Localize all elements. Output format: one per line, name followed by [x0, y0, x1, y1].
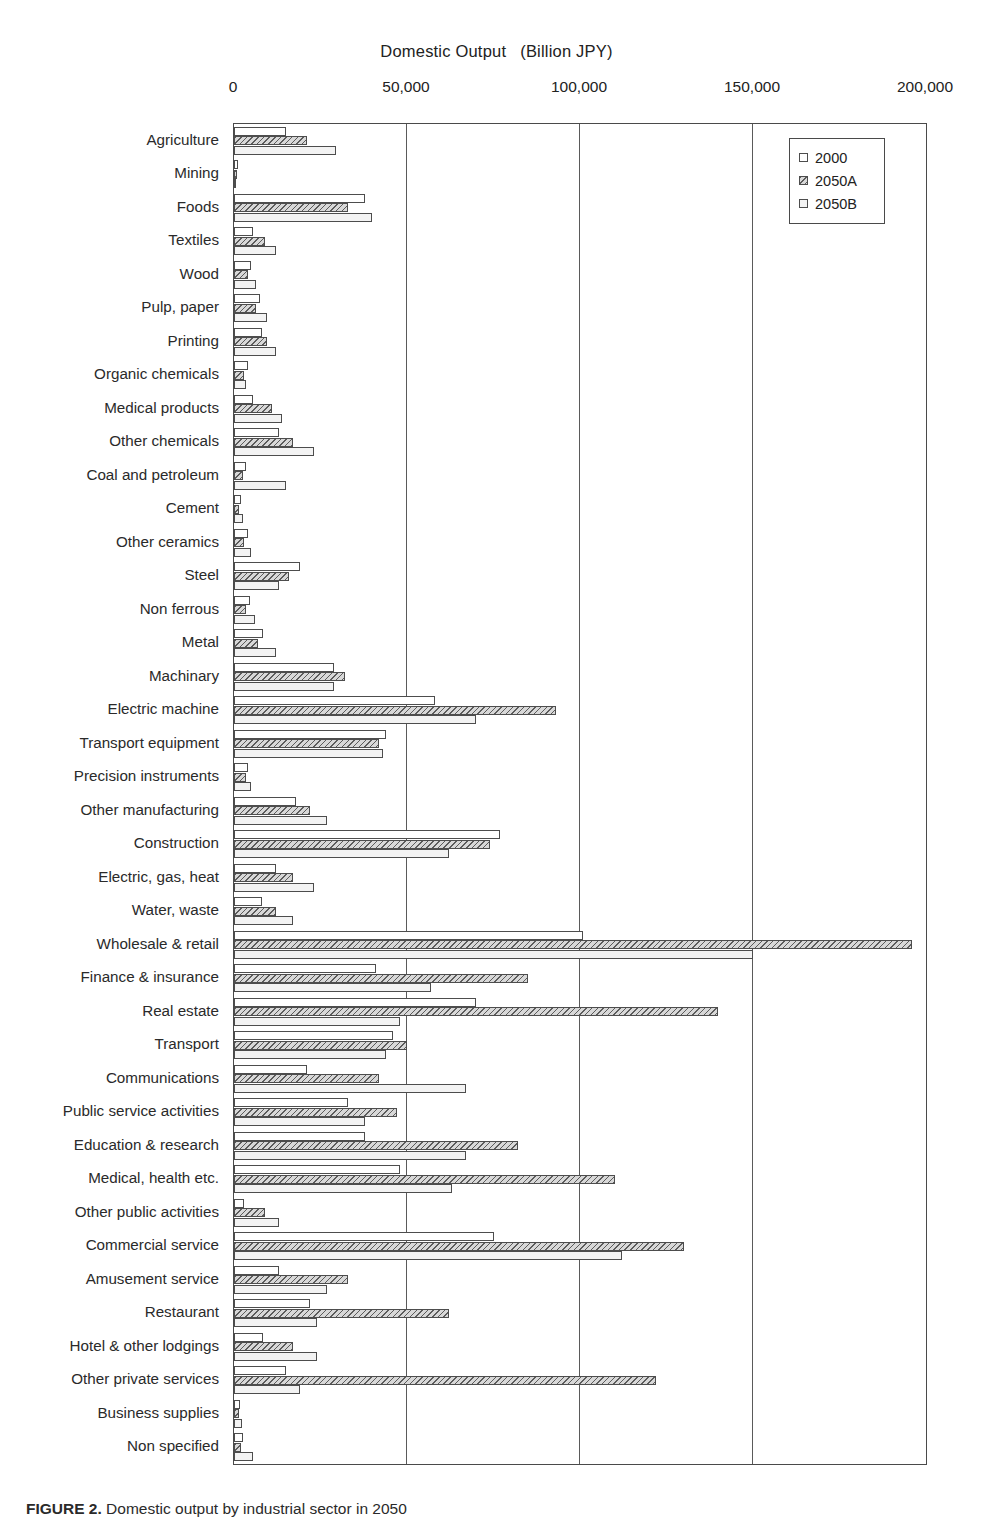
figure-caption: FIGURE 2. Domestic output by industrial … — [26, 1500, 407, 1518]
category-label: Steel — [184, 568, 219, 583]
category-label: Education & research — [74, 1137, 219, 1152]
bar-2000 — [234, 160, 238, 169]
bar-2000 — [234, 562, 300, 571]
bar-2000 — [234, 1333, 263, 1342]
bar-2050A — [234, 337, 267, 346]
bar-2050A — [234, 572, 289, 581]
category-label: Mining — [174, 166, 219, 181]
bar-2000 — [234, 1165, 400, 1174]
bar-2050B — [234, 313, 267, 322]
bar-2000 — [234, 696, 435, 705]
bar-2050A — [234, 639, 258, 648]
bar-2050B — [234, 347, 276, 356]
category-label: Metal — [182, 635, 219, 650]
bar-2050A — [234, 873, 293, 882]
bar-2050A — [234, 739, 379, 748]
legend-swatch-2050A — [799, 176, 808, 185]
bar-2000 — [234, 294, 260, 303]
bar-2000 — [234, 663, 334, 672]
bar-2000 — [234, 931, 583, 940]
bar-2050B — [234, 615, 255, 624]
bar-2000 — [234, 261, 251, 270]
bar-2000 — [234, 1132, 365, 1141]
bar-2000 — [234, 797, 296, 806]
bar-2050B — [234, 1352, 317, 1361]
chart-legend: 20002050A2050B — [789, 138, 885, 224]
bar-2000 — [234, 495, 241, 504]
bar-2000 — [234, 1232, 494, 1241]
category-label: Machinary — [149, 668, 219, 683]
bar-2000 — [234, 730, 386, 739]
category-label: Other public activities — [75, 1204, 219, 1219]
category-label: Foods — [177, 199, 219, 214]
bar-2050A — [234, 1309, 449, 1318]
bar-2050A — [234, 1074, 379, 1083]
bar-2050A — [234, 1376, 656, 1385]
category-label: Amusement service — [86, 1271, 219, 1286]
bar-2000 — [234, 1299, 310, 1308]
category-label: Commercial service — [86, 1238, 219, 1253]
bar-2050B — [234, 1117, 365, 1126]
bar-2050A — [234, 672, 345, 681]
category-label: Pulp, paper — [141, 300, 219, 315]
figure-caption-text: Domestic output by industrial sector in … — [106, 1500, 407, 1517]
bar-2050B — [234, 1084, 466, 1093]
chart-title: Domestic Output(Billion JPY) — [0, 42, 993, 61]
bar-2050B — [234, 246, 276, 255]
bar-2050B — [234, 782, 251, 791]
category-label: Finance & insurance — [81, 970, 219, 985]
legend-item: 2000 — [799, 146, 875, 169]
bar-2050A — [234, 1175, 615, 1184]
legend-label: 2000 — [815, 150, 847, 166]
bar-2050B — [234, 1218, 279, 1227]
category-label: Other private services — [71, 1372, 219, 1387]
bar-2000 — [234, 964, 376, 973]
bar-2000 — [234, 1031, 393, 1040]
category-label: Transport — [155, 1037, 219, 1052]
category-label: Textiles — [168, 233, 219, 248]
bar-2050A — [234, 974, 528, 983]
bar-2050B — [234, 447, 314, 456]
bar-2050B — [234, 1419, 242, 1428]
category-label: Printing — [168, 333, 220, 348]
bar-2050B — [234, 146, 336, 155]
category-label: Coal and petroleum — [86, 467, 219, 482]
chart-title-unit: (Billion JPY) — [520, 42, 612, 60]
bar-2000 — [234, 864, 276, 873]
bar-2050A — [234, 1208, 265, 1217]
category-label: Cement — [166, 501, 219, 516]
y-axis-category-labels: AgricultureMiningFoodsTextilesWoodPulp, … — [0, 123, 227, 1465]
category-label: Electric, gas, heat — [98, 869, 219, 884]
bar-2050B — [234, 1184, 452, 1193]
bar-2050A — [234, 270, 248, 279]
bar-2050A — [234, 1342, 293, 1351]
bar-2050B — [234, 280, 256, 289]
legend-item: 2050B — [799, 192, 875, 215]
category-label: Restaurant — [145, 1305, 219, 1320]
bar-2050B — [234, 648, 276, 657]
bar-2050B — [234, 1050, 386, 1059]
category-label: Public service activities — [63, 1104, 219, 1119]
legend-label: 2050A — [815, 173, 857, 189]
bar-2050A — [234, 940, 912, 949]
category-label: Other chemicals — [109, 434, 219, 449]
category-label: Agriculture — [146, 132, 219, 147]
bar-2050B — [234, 916, 293, 925]
bar-2050A — [234, 1409, 239, 1418]
bar-2050B — [234, 1151, 466, 1160]
chart-container: Domestic Output(Billion JPY) 050,000100,… — [0, 0, 993, 1525]
legend-label: 2050B — [815, 196, 857, 212]
category-label: Other ceramics — [116, 534, 219, 549]
legend-swatch-2050B — [799, 199, 808, 208]
bar-2050B — [234, 1251, 622, 1260]
category-label: Other manufacturing — [81, 802, 219, 817]
bar-2050B — [234, 1385, 300, 1394]
bar-2050B — [234, 816, 327, 825]
legend-swatch-2000 — [799, 153, 808, 162]
category-label: Transport equipment — [79, 735, 219, 750]
bar-2050B — [234, 414, 282, 423]
bar-2050A — [234, 1007, 718, 1016]
bar-2050B — [234, 950, 753, 959]
bar-2000 — [234, 127, 286, 136]
bar-2050B — [234, 1318, 317, 1327]
